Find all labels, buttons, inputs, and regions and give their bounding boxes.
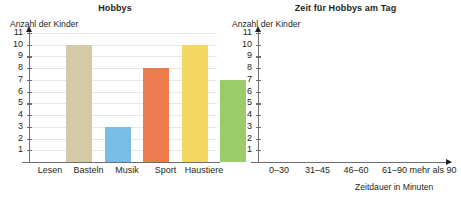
y-axis-tick: [256, 150, 261, 151]
y-axis-tick-label: 7: [9, 75, 23, 84]
y-axis-tick: [27, 103, 32, 104]
y-axis-tick: [256, 92, 261, 93]
y-axis-tick: [256, 127, 261, 128]
y-axis-tick-label: 6: [9, 87, 23, 96]
y-axis-tick-label: 10: [9, 40, 23, 49]
y-axis-tick-label: 11: [238, 28, 252, 37]
plot-area: [29, 33, 217, 162]
y-axis-tick: [256, 115, 261, 116]
y-axis-tick-label: 4: [238, 110, 252, 119]
y-axis-tick: [256, 33, 261, 34]
y-axis-tick-label: 2: [9, 134, 23, 143]
chart-hobbys: Hobbys Anzahl der Kinder 1110987654321Le…: [0, 0, 230, 201]
y-axis-tick: [256, 103, 261, 104]
y-axis-tick: [27, 80, 32, 81]
y-axis-tick: [256, 80, 261, 81]
y-axis-line: [258, 31, 259, 163]
y-axis-tick-label: 4: [9, 110, 23, 119]
y-axis-arrow-icon: [26, 26, 32, 32]
y-axis-tick-label: 8: [238, 63, 252, 72]
y-axis-tick-label: 1: [9, 145, 23, 154]
chart-title: Zeit für Hobbys am Tag: [230, 3, 461, 13]
y-axis-tick: [27, 56, 32, 57]
y-axis-tick-label: 3: [238, 122, 252, 131]
y-axis-tick: [256, 45, 261, 46]
x-axis-line: [251, 162, 451, 163]
y-axis-tick: [27, 92, 32, 93]
y-axis-tick-label: 9: [9, 51, 23, 60]
bar[interactable]: [143, 68, 169, 162]
y-axis-tick: [27, 139, 32, 140]
y-axis-tick-label: 5: [9, 98, 23, 107]
chart-zeit-fuer-hobbys: Zeit für Hobbys am Tag Anzahl der Kinder…: [230, 0, 461, 201]
y-axis-tick-label: 11: [9, 28, 23, 37]
y-axis-tick: [256, 56, 261, 57]
y-axis-tick: [27, 127, 32, 128]
y-axis-tick-label: 3: [9, 122, 23, 131]
y-axis-tick-label: 2: [238, 134, 252, 143]
x-axis-category-label: Haustiere: [178, 165, 230, 176]
y-axis-tick: [256, 139, 261, 140]
y-axis-tick: [27, 150, 32, 151]
y-axis-tick-label: 10: [238, 40, 252, 49]
y-axis-tick: [27, 68, 32, 69]
y-axis-arrow-icon: [255, 26, 261, 32]
bar[interactable]: [182, 45, 208, 162]
bar[interactable]: [105, 127, 131, 162]
y-axis-tick-label: 6: [238, 87, 252, 96]
y-axis-tick-label: 7: [238, 75, 252, 84]
y-axis-tick-label: 5: [238, 98, 252, 107]
y-axis-line: [29, 31, 30, 163]
x-axis-line: [22, 162, 220, 163]
x-axis-title: Zeitdauer in Minuten: [355, 182, 433, 192]
y-axis-tick: [27, 45, 32, 46]
chart-title: Hobbys: [0, 3, 230, 13]
y-axis-tick-label: 9: [238, 51, 252, 60]
x-axis-arrow-icon: [446, 159, 452, 165]
x-axis-category-label: mehr als 90: [407, 165, 459, 176]
y-axis-tick: [27, 115, 32, 116]
y-axis-tick-label: 8: [9, 63, 23, 72]
gridline: [29, 33, 217, 34]
y-axis-tick: [27, 33, 32, 34]
y-axis-tick: [256, 68, 261, 69]
bar[interactable]: [66, 45, 92, 162]
y-axis-tick-label: 1: [238, 145, 252, 154]
